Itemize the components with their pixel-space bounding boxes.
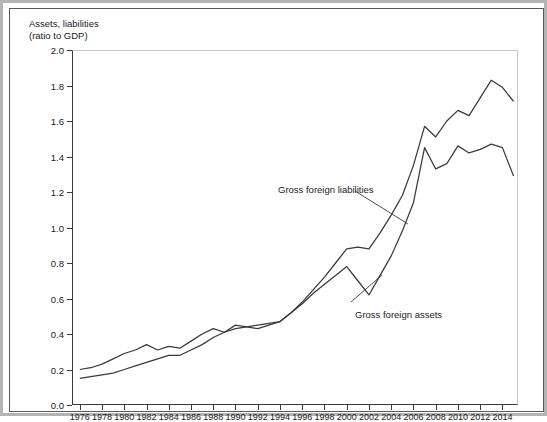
x-axis-tick-mark <box>436 405 437 410</box>
x-axis-tick-mark <box>258 405 259 410</box>
x-axis-tick-mark <box>324 405 325 410</box>
y-axis-tick-label: 0.8 <box>24 258 64 269</box>
x-axis-tick-mark <box>458 405 459 410</box>
x-axis-tick-mark <box>391 405 392 410</box>
x-axis-tick-mark <box>124 405 125 410</box>
x-axis-tick-mark <box>213 405 214 410</box>
annotation-label: Gross foreign assets <box>355 309 442 320</box>
figure-inner-border: Assets, liabilities(ratio to GDP) 0.00.2… <box>9 8 544 412</box>
y-axis-tick-label: 1.2 <box>24 187 64 198</box>
x-axis-tick-mark <box>280 405 281 410</box>
data-lines-layer <box>72 50 518 405</box>
series-line-gross-foreign-assets <box>80 144 514 378</box>
y-axis-tick-label: 1.4 <box>24 151 64 162</box>
y-axis-tick-mark <box>67 50 72 51</box>
y-axis-tick-mark <box>67 86 72 87</box>
x-axis-tick-mark <box>102 405 103 410</box>
y-axis-tick-label: 1.8 <box>24 80 64 91</box>
y-axis-tick-label: 1.0 <box>24 222 64 233</box>
y-axis-tick-mark <box>67 192 72 193</box>
x-axis-tick-mark <box>80 405 81 410</box>
y-axis-tick-mark <box>67 228 72 229</box>
x-axis-tick-mark <box>191 405 192 410</box>
series-line-gross-foreign-liabilities <box>80 80 514 369</box>
y-axis-tick-mark <box>67 334 72 335</box>
chart-title: Assets, liabilities(ratio to GDP) <box>29 18 99 42</box>
x-axis-tick-mark <box>169 405 170 410</box>
x-axis-tick-label: 2014 <box>482 412 522 422</box>
y-axis-tick-mark <box>67 299 72 300</box>
y-axis-tick-label: 0.2 <box>24 364 64 375</box>
y-axis-tick-mark <box>67 370 72 371</box>
x-axis-tick-mark <box>302 405 303 410</box>
chart-title-line-2: (ratio to GDP) <box>29 30 88 41</box>
y-axis-tick-label: 2.0 <box>24 45 64 56</box>
y-axis-tick-mark <box>67 157 72 158</box>
x-axis-tick-mark <box>413 405 414 410</box>
x-axis-tick-mark <box>369 405 370 410</box>
y-axis-tick-label: 0.4 <box>24 329 64 340</box>
y-axis-tick-mark <box>67 121 72 122</box>
y-axis-tick-label: 0.6 <box>24 293 64 304</box>
annotation-label: Gross foreign liabilities <box>278 184 374 195</box>
x-axis-tick-mark <box>147 405 148 410</box>
y-axis-tick-mark <box>67 405 72 406</box>
plot-area <box>72 50 518 405</box>
x-axis-tick-mark <box>502 405 503 410</box>
x-axis-tick-mark <box>480 405 481 410</box>
chart-title-line-1: Assets, liabilities <box>29 18 99 29</box>
x-axis-tick-mark <box>347 405 348 410</box>
y-axis-tick-mark <box>67 263 72 264</box>
y-axis-tick-label: 0.0 <box>24 400 64 411</box>
y-axis-tick-label: 1.6 <box>24 116 64 127</box>
x-axis-tick-mark <box>235 405 236 410</box>
